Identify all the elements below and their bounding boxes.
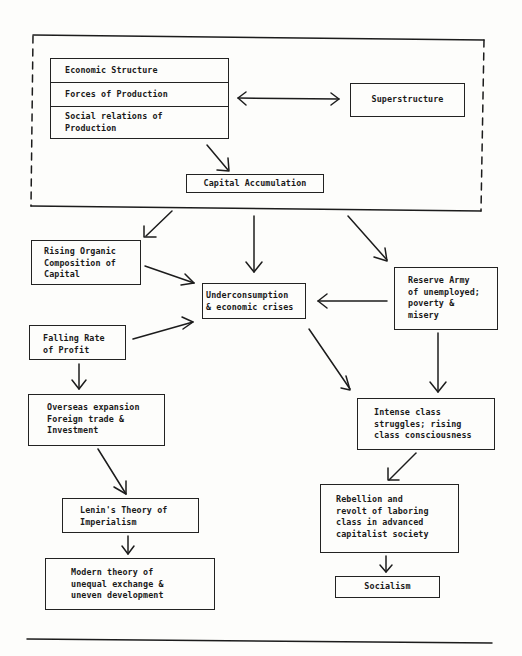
economic-structure-box: Economic Structure Forces of Production …	[50, 58, 229, 139]
bidirectional-arrow	[238, 92, 339, 105]
rising-organic-composition-box: Rising Organic Composition of Capital	[31, 240, 141, 285]
social-relations-of-production: Social relations of Production	[51, 106, 228, 138]
forces-of-production: Forces of Production	[51, 82, 228, 106]
capital-accumulation-box: Capital Accumulation	[186, 174, 324, 193]
superstructure-box: Superstructure	[350, 83, 465, 117]
rebellion-box: Rebellion and revolt of laboring class i…	[320, 484, 459, 553]
economic-structure-title: Economic Structure	[51, 59, 228, 82]
lenins-theory-box: Lenin's Theory of Imperialism	[62, 498, 199, 533]
reserve-army-box: Reserve Army of unemployed; poverty & mi…	[394, 267, 498, 330]
modern-theory-box: Modern theory of unequal exchange & unev…	[45, 558, 215, 610]
underconsumption-box: Underconsumption & economic crises	[202, 283, 306, 319]
falling-rate-of-profit-box: Falling Rate of Profit	[29, 325, 126, 360]
overseas-expansion-box: Overseas expansion Foreign trade & Inves…	[28, 394, 165, 446]
socialism-box: Socialism	[335, 576, 440, 598]
bottom-rule	[27, 639, 492, 643]
class-struggle-box: Intense class struggles; rising class co…	[357, 398, 495, 450]
